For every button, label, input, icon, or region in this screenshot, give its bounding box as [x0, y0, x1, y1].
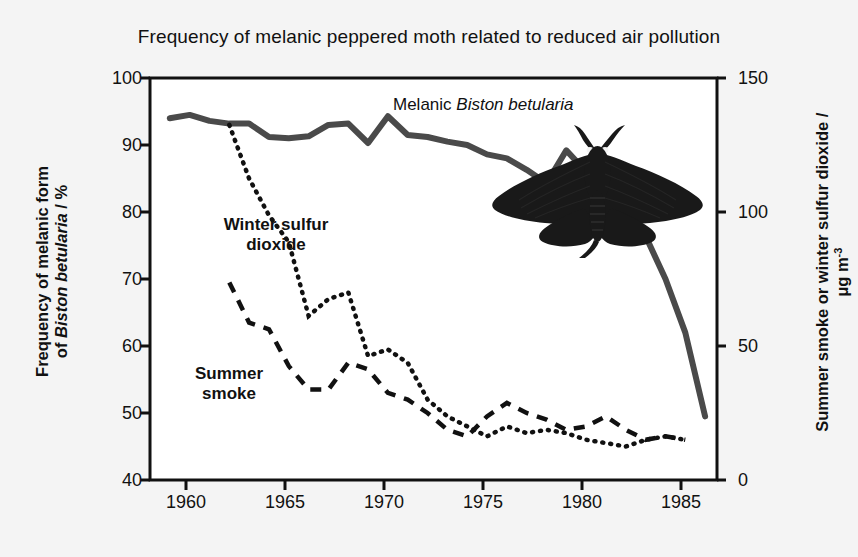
annotation-summer-smoke-line2: smoke	[202, 384, 256, 403]
chart-figure: Frequency of melanic peppered moth relat…	[0, 0, 858, 557]
moth-antenna-left	[574, 125, 596, 152]
annotation-summer-smoke: Summer smoke	[164, 364, 294, 403]
annotation-winter-so2-line2: dioxide	[246, 235, 306, 254]
annotation-winter-so2-line1: Winter sulfur	[224, 215, 329, 234]
annotation-melanic-prefix: Melanic	[393, 95, 456, 114]
plot-area	[0, 0, 858, 557]
melanic-moth-image	[489, 122, 704, 258]
annotation-summer-smoke-line1: Summer	[195, 364, 263, 383]
annotation-winter-sulfur-dioxide: Winter sulfur dioxide	[196, 215, 356, 254]
annotation-melanic-species-name: Biston betularia	[456, 95, 573, 114]
annotation-melanic-species: Melanic Biston betularia	[393, 95, 574, 115]
